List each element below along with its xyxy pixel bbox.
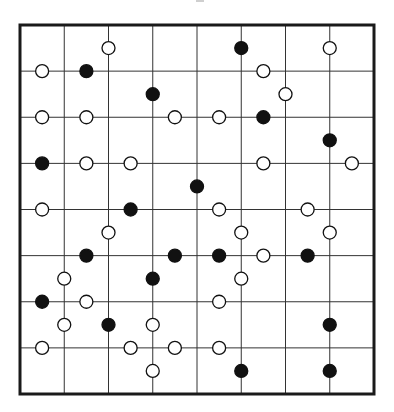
filled-circle [80,65,93,78]
open-circle [36,111,49,124]
open-circle [213,341,226,354]
open-circle [146,318,159,331]
open-circle [58,318,71,331]
filled-circle [301,249,314,262]
open-circle [323,226,336,239]
filled-circle [102,318,115,331]
open-circle [36,65,49,78]
filled-circle [323,364,336,377]
filled-circle [36,295,49,308]
filled-circle [124,203,137,216]
open-circle [301,203,314,216]
filled-circle [80,249,93,262]
open-circle [102,226,115,239]
open-circle [235,226,248,239]
filled-circle [36,157,49,170]
filled-circle [235,42,248,55]
filled-circle [191,180,204,193]
open-circle [213,203,226,216]
open-circle [80,295,93,308]
open-circle [168,341,181,354]
open-circle [124,341,137,354]
filled-circle [235,364,248,377]
filled-circle [323,134,336,147]
circle-grid-diagram [0,0,394,412]
open-circle [235,272,248,285]
open-circle [345,157,358,170]
open-circle [257,249,270,262]
filled-circle [257,111,270,124]
open-circle [36,341,49,354]
open-circle [80,111,93,124]
open-circle [213,111,226,124]
grid-lines [20,25,374,394]
open-circle [102,42,115,55]
open-circle [257,157,270,170]
open-circle [279,88,292,101]
open-circle [124,157,137,170]
open-circle [323,42,336,55]
open-circle [213,295,226,308]
open-circle [146,364,159,377]
open-circle [168,111,181,124]
filled-circle [213,249,226,262]
filled-circle [146,272,159,285]
open-circle [80,157,93,170]
open-circle [36,203,49,216]
filled-circle [323,318,336,331]
filled-circle [146,88,159,101]
open-circle [58,272,71,285]
filled-circle [168,249,181,262]
open-circle [257,65,270,78]
